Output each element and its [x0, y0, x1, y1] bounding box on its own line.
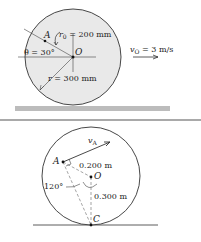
label-radius: r = 300 mm: [48, 74, 97, 83]
bottom-figure: A O C vA 0.200 m 0.300 m 120°: [33, 127, 158, 226]
label-distance-ao: 0.200 m: [79, 161, 112, 170]
diagram-canvas: A r0 = 200 mm θ = 30° O r = 300 mm vO = …: [0, 0, 201, 242]
top-figure: A r0 = 200 mm θ = 30° O r = 300 mm vO = …: [15, 9, 173, 111]
point-a-dot: [44, 40, 47, 43]
label-velocity-o: vO = 3 m/s: [130, 45, 173, 55]
label-r0: r0 = 200 mm: [59, 30, 112, 40]
point-o-dot-bottom: [90, 176, 93, 179]
point-a-dot-bottom: [62, 161, 65, 164]
label-point-o: O: [75, 47, 83, 57]
label-point-c: C: [93, 214, 100, 224]
label-distance-oc: 0.300 m: [94, 192, 127, 201]
label-angle: 120°: [44, 182, 63, 191]
point-c-dot: [90, 224, 93, 227]
label-point-a-bottom: A: [52, 156, 60, 166]
label-theta: θ = 30°: [24, 48, 55, 57]
label-point-o-bottom: O: [94, 171, 102, 181]
label-point-a: A: [43, 30, 51, 40]
ground-surface: [15, 106, 170, 111]
